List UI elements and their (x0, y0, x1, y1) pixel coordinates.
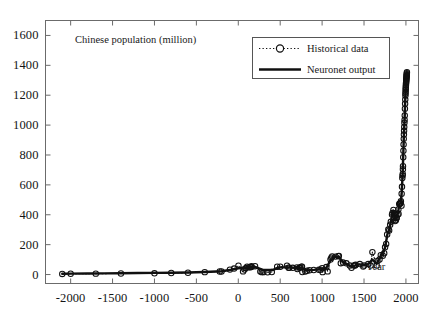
series-line (62, 72, 407, 274)
x-tick-label: -500 (185, 291, 208, 306)
y-tick-label: 400 (0, 207, 39, 222)
data-series-layer (60, 70, 410, 277)
chart-legend: Historical data Neuronet output (252, 37, 390, 79)
y-tick-label: 1200 (0, 88, 39, 103)
figure-canvas: -2000-1500-1000-500050010001500200002004… (0, 0, 435, 320)
legend-item-historical: Historical data (253, 38, 389, 59)
legend-label-neuronet: Neuronet output (307, 64, 376, 75)
legend-item-neuronet: Neuronet output (253, 59, 389, 80)
chart-title: Chinese population (million) (75, 34, 196, 45)
y-tick-label: 800 (0, 147, 39, 162)
x-tick-label: 500 (271, 291, 290, 306)
legend-swatch-historical (253, 38, 307, 59)
x-tick-label: 2000 (393, 291, 418, 306)
x-tick-label: 1500 (351, 291, 376, 306)
x-tick-label: -2000 (56, 291, 86, 306)
x-axis-label: Year (366, 261, 385, 272)
series-line (62, 73, 407, 274)
y-tick-label: 1000 (0, 118, 39, 133)
y-tick-label: 1400 (0, 58, 39, 73)
y-tick-label: 1600 (0, 28, 39, 43)
y-tick-label: 200 (0, 237, 39, 252)
x-tick-label: 1000 (309, 291, 334, 306)
x-tick-label: -1000 (140, 291, 170, 306)
y-tick-label: 600 (0, 177, 39, 192)
legend-label-historical: Historical data (307, 43, 369, 54)
x-tick-label: -1500 (98, 291, 128, 306)
x-tick-label: 0 (235, 291, 241, 306)
y-tick-label: 0 (0, 267, 39, 282)
legend-swatch-neuronet (253, 59, 307, 80)
